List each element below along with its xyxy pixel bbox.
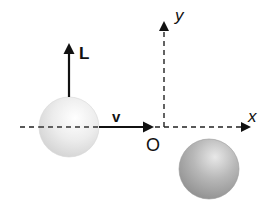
y-axis — [159, 21, 169, 127]
diagram-canvas: L v O x y — [0, 0, 271, 211]
velocity-vector — [99, 122, 154, 133]
angular-momentum-vector — [64, 43, 75, 97]
v-arrowhead-icon — [143, 122, 154, 133]
target-sphere — [179, 139, 239, 199]
v-label: v — [112, 108, 121, 125]
origin-label: O — [146, 135, 160, 155]
y-axis-arrowhead-icon — [159, 21, 169, 31]
y-axis-label: y — [174, 6, 185, 25]
L-label: L — [79, 44, 89, 63]
L-arrowhead-icon — [64, 43, 75, 54]
x-axis-label: x — [247, 107, 257, 126]
